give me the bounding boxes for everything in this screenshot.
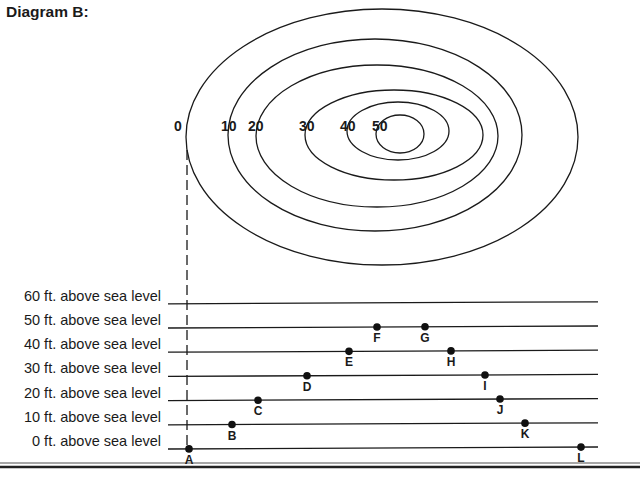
profile-point-label-H: H: [447, 355, 456, 369]
elevation-label-20ft: 20 ft. above sea level: [24, 385, 161, 401]
profile-point-label-G: G: [420, 331, 429, 345]
profile-point-L: [577, 443, 585, 451]
elevation-label-10ft: 10 ft. above sea level: [24, 409, 161, 425]
profile-point-C: [254, 396, 262, 404]
elevation-line-0ft: [168, 447, 598, 449]
profile-point-B: [228, 421, 236, 429]
profile-point-label-C: C: [254, 404, 263, 418]
profile-point-label-D: D: [303, 380, 312, 394]
profile-point-D: [303, 372, 311, 380]
contour-label-50: 50: [372, 118, 388, 134]
elevation-label-50ft: 50 ft. above sea level: [24, 312, 161, 328]
profile-point-K: [521, 419, 529, 427]
contour-label-30: 30: [299, 118, 315, 134]
elevation-line-50ft: [168, 326, 598, 328]
profile-point-G: [421, 323, 429, 331]
profile-point-A: [185, 445, 193, 453]
profile-point-label-B: B: [228, 429, 237, 443]
topographic-diagram: 01020304050 60 ft. above sea level50 ft.…: [0, 0, 640, 477]
elevation-label-60ft: 60 ft. above sea level: [24, 288, 161, 304]
profile-point-F: [373, 323, 381, 331]
contour-label-10: 10: [221, 118, 237, 134]
contour-line-30: [305, 90, 483, 180]
profile-point-I: [481, 371, 489, 379]
elevation-profile: 60 ft. above sea level50 ft. above sea l…: [24, 288, 598, 467]
contour-line-40: [347, 102, 449, 160]
profile-point-E: [345, 348, 353, 356]
contour-line-10: [228, 39, 522, 231]
profile-point-J: [496, 395, 504, 403]
elevation-label-40ft: 40 ft. above sea level: [24, 336, 161, 352]
elevation-line-30ft: [168, 374, 598, 376]
contour-label-20: 20: [248, 118, 264, 134]
profile-point-label-A: A: [185, 453, 194, 467]
profile-point-label-J: J: [497, 403, 504, 417]
profile-point-label-K: K: [521, 427, 530, 441]
elevation-label-0ft: 0 ft. above sea level: [32, 433, 161, 449]
contour-map: 01020304050: [174, 9, 578, 265]
profile-point-label-F: F: [373, 331, 380, 345]
elevation-line-40ft: [168, 350, 598, 352]
elevation-label-30ft: 30 ft. above sea level: [24, 360, 161, 376]
profile-point-H: [447, 347, 455, 355]
elevation-line-60ft: [168, 302, 598, 304]
profile-point-label-E: E: [345, 355, 353, 369]
contour-label-40: 40: [340, 118, 356, 134]
elevation-line-20ft: [168, 399, 598, 401]
contour-line-20: [256, 65, 498, 207]
contour-line-0: [186, 9, 578, 265]
contour-label-0: 0: [174, 118, 182, 134]
profile-point-label-I: I: [483, 379, 486, 393]
